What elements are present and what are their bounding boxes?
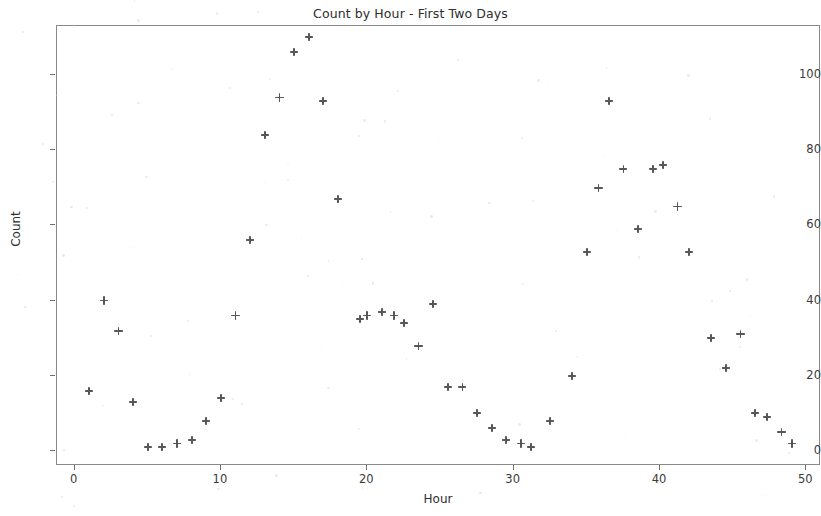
data-point bbox=[99, 296, 108, 305]
data-point bbox=[389, 311, 398, 320]
data-point bbox=[516, 439, 525, 448]
y-tick-label: 0 bbox=[787, 443, 821, 457]
data-point bbox=[231, 311, 240, 320]
data-point bbox=[721, 364, 730, 373]
data-point bbox=[319, 97, 328, 106]
x-axis-label: Hour bbox=[56, 492, 820, 506]
data-point bbox=[304, 33, 313, 42]
x-tick-mark bbox=[659, 465, 660, 470]
data-point bbox=[216, 394, 225, 403]
data-point bbox=[377, 307, 386, 316]
x-tick-label: 20 bbox=[346, 472, 386, 486]
data-point bbox=[568, 371, 577, 380]
data-point bbox=[777, 428, 786, 437]
y-tick-label: 60 bbox=[787, 217, 821, 231]
data-point bbox=[658, 161, 667, 170]
data-point bbox=[129, 398, 138, 407]
data-point bbox=[736, 330, 745, 339]
data-point bbox=[443, 383, 452, 392]
x-tick-label: 0 bbox=[54, 472, 94, 486]
x-tick-mark bbox=[220, 465, 221, 470]
x-tick-label: 30 bbox=[493, 472, 533, 486]
data-point bbox=[85, 386, 94, 395]
data-point bbox=[275, 93, 284, 102]
y-tick-label: 20 bbox=[787, 368, 821, 382]
data-point bbox=[260, 131, 269, 140]
y-tick-label: 100 bbox=[787, 67, 821, 81]
y-tick-mark bbox=[50, 224, 55, 225]
data-point bbox=[458, 383, 467, 392]
background-speck bbox=[22, 31, 24, 33]
y-tick-label: 80 bbox=[787, 142, 821, 156]
y-tick-label: 40 bbox=[787, 293, 821, 307]
data-point bbox=[648, 164, 657, 173]
data-point bbox=[685, 247, 694, 256]
x-tick-mark bbox=[513, 465, 514, 470]
data-point bbox=[355, 315, 364, 324]
background-speck bbox=[217, 488, 219, 490]
background-speck bbox=[17, 274, 18, 275]
data-point bbox=[762, 413, 771, 422]
scatter-plot-figure: Count by Hour - First Two Days 020406080… bbox=[0, 0, 821, 516]
data-point bbox=[619, 164, 628, 173]
data-point bbox=[429, 300, 438, 309]
data-point bbox=[114, 326, 123, 335]
data-point bbox=[527, 443, 536, 452]
chart-title: Count by Hour - First Two Days bbox=[0, 6, 821, 21]
data-point bbox=[246, 236, 255, 245]
data-point bbox=[399, 319, 408, 328]
data-point bbox=[173, 439, 182, 448]
y-tick-mark bbox=[50, 375, 55, 376]
x-tick-mark bbox=[74, 465, 75, 470]
background-speck bbox=[134, 0, 135, 1]
data-point bbox=[604, 97, 613, 106]
data-point bbox=[751, 409, 760, 418]
y-tick-mark bbox=[50, 149, 55, 150]
data-point bbox=[143, 443, 152, 452]
data-point bbox=[546, 416, 555, 425]
x-tick-mark bbox=[805, 465, 806, 470]
data-point bbox=[414, 341, 423, 350]
x-tick-label: 10 bbox=[200, 472, 240, 486]
y-tick-mark bbox=[50, 74, 55, 75]
y-tick-mark bbox=[50, 300, 55, 301]
data-point bbox=[202, 416, 211, 425]
data-point bbox=[334, 194, 343, 203]
data-point bbox=[634, 225, 643, 234]
background-speck bbox=[52, 181, 54, 183]
background-speck bbox=[24, 306, 26, 308]
data-point bbox=[473, 409, 482, 418]
data-point bbox=[502, 435, 511, 444]
data-point bbox=[363, 311, 372, 320]
plot-area bbox=[56, 25, 820, 465]
data-point bbox=[707, 334, 716, 343]
data-point bbox=[158, 443, 167, 452]
background-speck bbox=[275, 474, 277, 476]
data-point bbox=[582, 247, 591, 256]
data-point bbox=[487, 424, 496, 433]
data-point bbox=[594, 183, 603, 192]
data-point bbox=[187, 435, 196, 444]
y-axis-label: Count bbox=[9, 189, 23, 269]
data-points-layer bbox=[57, 26, 819, 464]
background-speck bbox=[362, 487, 363, 488]
x-tick-label: 40 bbox=[639, 472, 679, 486]
x-tick-mark bbox=[366, 465, 367, 470]
background-speck bbox=[42, 143, 44, 145]
x-tick-label: 50 bbox=[785, 472, 821, 486]
y-tick-mark bbox=[50, 450, 55, 451]
data-point bbox=[673, 202, 682, 211]
data-point bbox=[290, 48, 299, 57]
